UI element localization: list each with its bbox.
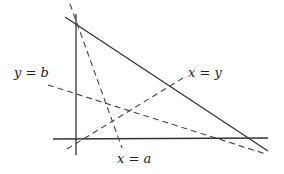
solid-diagonal-line: [65, 17, 268, 151]
diagram-canvas: y = b x = y x = a: [0, 0, 284, 174]
dashed-line-y-equals-b: [48, 85, 266, 154]
label-x-equals-y: x = y: [188, 65, 222, 80]
label-y-equals-b: y = b: [13, 65, 49, 80]
dashed-line-x-equals-a: [70, 4, 122, 148]
label-x-equals-a: x = a: [117, 151, 151, 166]
